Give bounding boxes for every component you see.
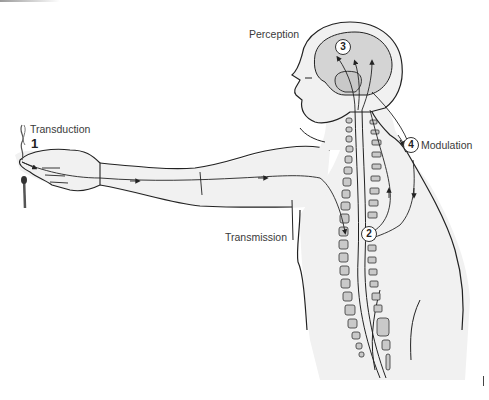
stage-1-number: 1 (31, 136, 38, 151)
edge-mark (483, 376, 484, 386)
head (292, 22, 402, 123)
transmission-label: Transmission (225, 231, 287, 243)
modulation-label: Modulation (421, 139, 472, 151)
transduction-label: Transduction (30, 123, 90, 135)
pain-pathway-illustration (0, 0, 489, 400)
perception-label: Perception (249, 28, 299, 40)
stage-4-badge: 4 (403, 137, 419, 153)
stage-3-badge: 3 (335, 39, 351, 55)
stage-2-badge: 2 (361, 226, 377, 242)
